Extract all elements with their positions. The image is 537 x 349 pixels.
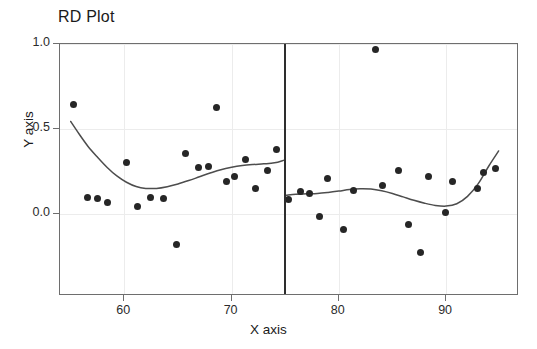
- data-point: [205, 163, 212, 170]
- right-polynomial-fit: [286, 151, 498, 206]
- rd-plot-figure: RD Plot Y axis X axis 0.00.51.060708090: [0, 0, 537, 349]
- page-title: RD Plot: [58, 8, 115, 26]
- data-point: [474, 185, 481, 192]
- data-point: [306, 190, 313, 197]
- x-axis-tick: [123, 295, 124, 301]
- plot-panel: [59, 43, 518, 295]
- y-axis-tick-label: 1.0: [6, 35, 50, 49]
- data-point: [123, 159, 130, 166]
- y-axis-tick-label: 0.0: [6, 205, 50, 219]
- x-axis-tick-label: 70: [211, 303, 251, 317]
- data-point: [492, 165, 499, 172]
- x-axis-tick-label: 60: [103, 303, 143, 317]
- data-point: [417, 249, 424, 256]
- x-axis-tick: [231, 295, 232, 301]
- data-point: [231, 173, 238, 180]
- cutoff-line: [284, 44, 286, 294]
- data-point: [340, 226, 347, 233]
- x-axis-tick: [338, 295, 339, 301]
- data-point: [324, 175, 331, 182]
- data-point: [316, 213, 323, 220]
- data-point: [264, 167, 271, 174]
- data-point: [297, 188, 304, 195]
- x-axis-tick-label: 90: [425, 303, 465, 317]
- data-point: [372, 46, 379, 53]
- data-point: [147, 194, 154, 201]
- data-point: [160, 195, 167, 202]
- data-point: [252, 185, 259, 192]
- fit-line-layer: [60, 44, 518, 295]
- data-point: [442, 209, 449, 216]
- left-polynomial-fit: [71, 121, 284, 188]
- data-point: [104, 199, 111, 206]
- data-point: [134, 203, 141, 210]
- x-axis-tick: [445, 295, 446, 301]
- y-axis-tick-label: 0.5: [6, 120, 50, 134]
- x-axis-title: X axis: [0, 322, 537, 337]
- data-point: [195, 164, 202, 171]
- data-point: [223, 178, 230, 185]
- x-axis-tick-label: 80: [318, 303, 358, 317]
